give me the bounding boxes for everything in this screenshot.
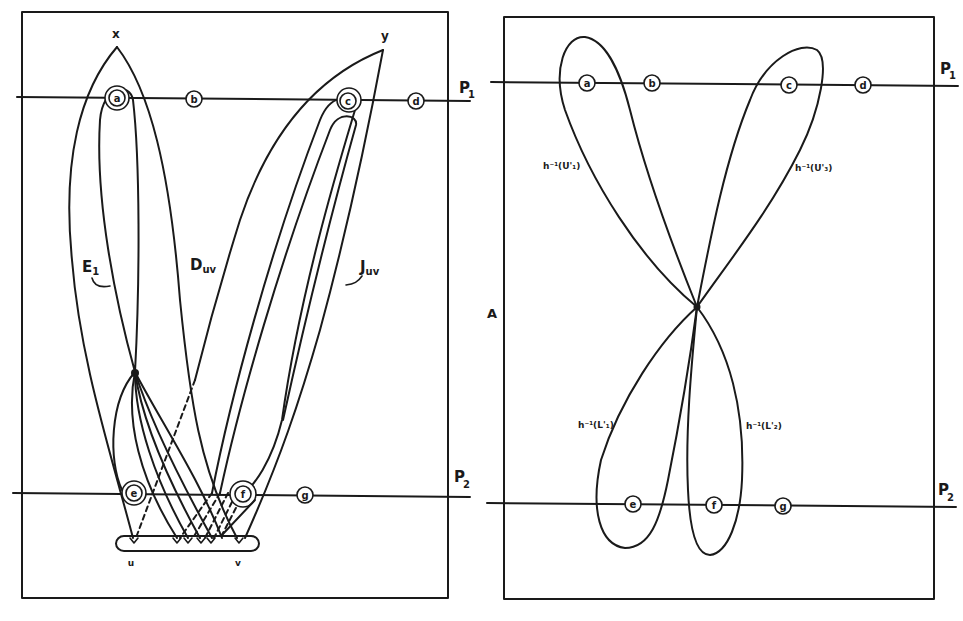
label-e1: E1 xyxy=(82,258,99,277)
label-y: y xyxy=(381,29,389,43)
label-a: a xyxy=(114,93,121,104)
label-juv: Juv xyxy=(359,258,380,277)
crossing-vertex xyxy=(694,304,701,311)
label-g-right: g xyxy=(779,501,786,512)
left-panel: a b c d e f g x y E1 Duv Juv P1 P2 u v xyxy=(13,12,475,598)
leader-e1 xyxy=(92,278,110,287)
label-u1: h⁻¹(U'₁) xyxy=(543,161,580,171)
label-e: e xyxy=(131,488,138,499)
label-f-right: f xyxy=(712,500,717,511)
label-p2-left: P2 xyxy=(454,468,470,490)
fan-curves xyxy=(113,372,222,538)
label-b-right: b xyxy=(648,78,655,89)
label-u3: h⁻¹(U'₃) xyxy=(795,163,832,173)
label-l1: h⁻¹(L'₁) xyxy=(578,420,614,430)
fan-vertex xyxy=(131,369,139,377)
loop-u3 xyxy=(697,47,823,307)
loop-l2 xyxy=(687,307,742,555)
cusp-ticks xyxy=(130,538,243,543)
right-panel: a b c d e f g h⁻¹(U'₁) h⁻¹(U'₃) h⁻¹(L'₁)… xyxy=(487,17,958,599)
label-a-region: A xyxy=(487,306,497,321)
label-b: b xyxy=(190,94,197,105)
label-c-right: c xyxy=(786,80,792,91)
label-duv: Duv xyxy=(190,256,217,275)
topology-figure: a b c d e f g x y E1 Duv Juv P1 P2 u v xyxy=(0,0,963,621)
label-u: u xyxy=(128,558,134,568)
label-p2-right: P2 xyxy=(938,481,954,503)
label-g: g xyxy=(301,490,308,501)
label-f: f xyxy=(241,489,246,500)
curve-e1-loop xyxy=(99,89,138,372)
label-e-right: e xyxy=(630,499,637,510)
label-d-right: d xyxy=(859,80,866,91)
curve-x-outer xyxy=(69,47,133,538)
label-x: x xyxy=(112,27,120,41)
line-p1-right xyxy=(491,82,958,86)
curve-c-loop-1 xyxy=(212,99,355,500)
leader-juv xyxy=(346,276,362,285)
label-d: d xyxy=(412,96,419,107)
label-p1-right: P1 xyxy=(940,60,956,81)
label-p1-left: P1 xyxy=(459,79,475,100)
line-p1 xyxy=(17,97,470,101)
label-v: v xyxy=(235,558,241,568)
label-c: c xyxy=(345,96,351,107)
label-a-right: a xyxy=(584,78,591,89)
label-l2: h⁻¹(L'₂) xyxy=(746,421,782,431)
